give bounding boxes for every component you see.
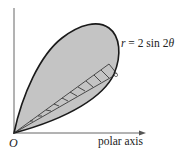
equation-theta: θ	[168, 37, 174, 49]
origin-label: O	[9, 137, 18, 149]
equation-body: = 2 sin 2	[125, 37, 168, 49]
curve-equation-label: r = 2 sin 2θ	[121, 38, 174, 50]
polar-axis-label: polar axis	[98, 136, 143, 148]
rose-petal-loop	[14, 24, 119, 133]
wedge-tip-marker	[114, 73, 117, 76]
polar-diagram	[0, 0, 183, 155]
